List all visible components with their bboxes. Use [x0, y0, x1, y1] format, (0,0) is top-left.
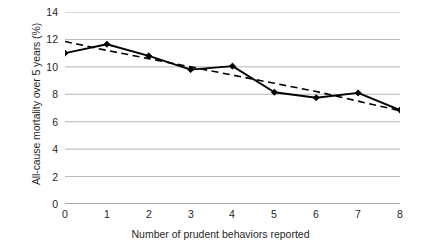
x-tick-label: 4: [222, 208, 242, 220]
x-tick-label: 8: [390, 208, 410, 220]
y-tick-label: 4: [36, 144, 58, 154]
y-tick-label: 14: [36, 7, 58, 17]
x-tick-label: 1: [97, 208, 117, 220]
y-tick-label: 12: [36, 34, 58, 44]
x-tick-label: 5: [264, 208, 284, 220]
axis-lines: [65, 12, 400, 204]
y-tick-label: 6: [36, 117, 58, 127]
plot-area: [65, 12, 400, 204]
data-line-solid: [65, 44, 400, 110]
x-axis-title: Number of prudent behaviors reported: [0, 228, 441, 240]
chart-canvas: [65, 12, 400, 204]
x-tick-label: 2: [139, 208, 159, 220]
x-tick-label: 0: [55, 208, 75, 220]
trend-line-dashed: [65, 41, 400, 110]
x-tick-label: 3: [181, 208, 201, 220]
x-tick-label: 7: [348, 208, 368, 220]
x-tick-label: 6: [306, 208, 326, 220]
y-tick-label: 10: [36, 62, 58, 72]
x-axis-tick-labels: 0 1 2 3 4 5 6 7 8: [0, 208, 441, 224]
chart-figure: All-cause mortality over 5 years (%) 14 …: [0, 0, 441, 244]
y-tick-label: 8: [36, 89, 58, 99]
y-tick-label: 2: [36, 172, 58, 182]
